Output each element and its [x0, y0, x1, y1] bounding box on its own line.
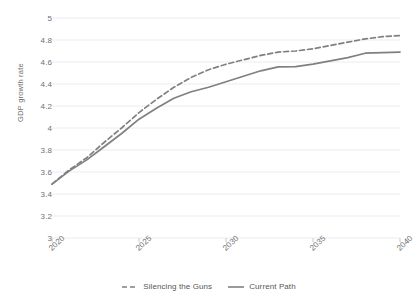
y-axis-tick-label: 5: [18, 14, 52, 23]
data-series-group: [52, 36, 400, 185]
y-axis-tick-label: 4.6: [18, 58, 52, 67]
plot-area: [0, 0, 418, 305]
legend-label: Current Path: [249, 282, 296, 291]
y-axis-tick-label: 4.8: [18, 36, 52, 45]
y-axis-tick-label: 4.4: [18, 80, 52, 89]
y-axis-tick-label: 3.8: [18, 146, 52, 155]
y-axis-tick-labels: 54.84.64.44.243.83.63.43.23: [14, 0, 52, 305]
series-line: [52, 52, 400, 184]
chart-title: [95, 0, 395, 4]
y-axis-tick-label: 3.2: [18, 212, 52, 221]
y-axis-tick-label: 3.6: [18, 168, 52, 177]
solid-line-swatch-icon: [228, 283, 244, 291]
chart-container: GDP growth rate 54.84.64.44.243.83.63.43…: [0, 0, 418, 305]
y-axis-tick-label: 3: [18, 234, 52, 243]
legend-item-current-path[interactable]: Current Path: [228, 282, 296, 291]
legend-label: Silencing the Guns: [143, 282, 212, 291]
gridlines: [52, 18, 400, 238]
chart-legend: Silencing the Guns Current Path: [0, 282, 418, 291]
dashed-line-swatch-icon: [122, 283, 138, 291]
y-axis-tick-label: 4.2: [18, 102, 52, 111]
legend-item-silencing-the-guns[interactable]: Silencing the Guns: [122, 282, 212, 291]
y-axis-tick-label: 3.4: [18, 190, 52, 199]
y-axis-tick-label: 4: [18, 124, 52, 133]
